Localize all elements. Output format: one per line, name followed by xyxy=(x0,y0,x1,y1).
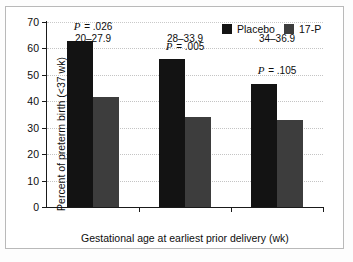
y-tick-label: 30 xyxy=(27,122,39,133)
bar-17-p-1 xyxy=(185,117,211,207)
y-tick-label: 50 xyxy=(27,70,39,81)
x-category-label: 20–27.9 xyxy=(75,33,111,44)
x-tick xyxy=(323,207,324,212)
y-tick xyxy=(42,128,47,129)
bar-placebo-0 xyxy=(67,41,93,208)
y-tick-label: 40 xyxy=(27,96,39,107)
y-tick xyxy=(42,207,47,208)
legend-label: 17-P xyxy=(299,24,321,35)
legend: Placebo17-P xyxy=(222,24,321,35)
p-value-label: P = .026 xyxy=(74,20,113,32)
bar-17-p-2 xyxy=(277,120,303,207)
p-symbol: P xyxy=(166,40,174,52)
p-value-label: P = .005 xyxy=(166,40,205,52)
y-tick xyxy=(42,75,47,76)
y-axis-title: Percent of preterm birth (<37 wk) xyxy=(55,44,67,224)
bar-placebo-1 xyxy=(159,59,185,207)
legend-swatch-icon xyxy=(222,24,232,34)
y-tick-label: 60 xyxy=(27,43,39,54)
y-tick xyxy=(42,154,47,155)
legend-item-placebo[interactable]: Placebo xyxy=(222,24,275,35)
y-tick-label: 70 xyxy=(27,17,39,28)
y-tick-label: 10 xyxy=(27,175,39,186)
p-value-label: P = .105 xyxy=(258,64,297,76)
y-tick-label: 0 xyxy=(33,202,39,213)
legend-label: Placebo xyxy=(237,24,275,35)
p-symbol: P xyxy=(74,20,82,32)
y-tick xyxy=(42,22,47,23)
legend-swatch-icon xyxy=(284,24,294,34)
x-axis-title: Gestational age at earliest prior delive… xyxy=(47,232,323,244)
x-axis-line xyxy=(46,207,324,208)
bar-17-p-0 xyxy=(93,97,119,207)
legend-item-17-p[interactable]: 17-P xyxy=(284,24,321,35)
x-tick xyxy=(231,207,232,212)
y-tick-label: 20 xyxy=(27,149,39,160)
x-tick xyxy=(139,207,140,212)
figure-chart: 010203040506070 20–27.928–33.934–36.9 P … xyxy=(0,0,353,262)
plot-area: 010203040506070 20–27.928–33.934–36.9 P … xyxy=(47,22,323,207)
y-tick xyxy=(42,181,47,182)
p-symbol: P xyxy=(258,64,266,76)
y-tick xyxy=(42,48,47,49)
bar-placebo-2 xyxy=(251,84,277,207)
y-tick xyxy=(42,101,47,102)
